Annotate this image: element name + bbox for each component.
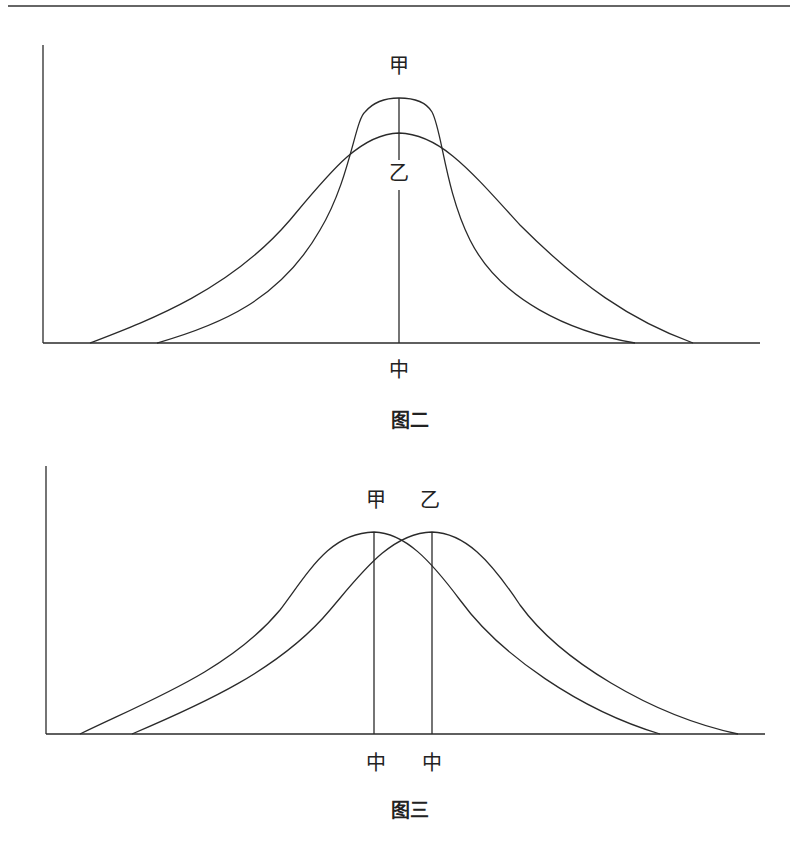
- fig3-caption: 图三: [391, 801, 429, 820]
- figure-3: [46, 466, 765, 734]
- fig3-label-center-left: 中: [366, 753, 386, 773]
- fig2-caption: 图二: [391, 411, 429, 430]
- fig3-curve-yi: [132, 532, 738, 734]
- fig2-curve-jia: [157, 98, 635, 343]
- fig3-label-jia: 甲: [366, 490, 386, 510]
- figure-2: [43, 45, 760, 343]
- fig3-label-yi: 乙: [420, 490, 440, 510]
- fig3-curve-jia: [80, 532, 660, 734]
- fig2-label-center: 中: [389, 360, 409, 380]
- fig2-label-jia: 甲: [389, 56, 409, 76]
- fig2-label-yi: 乙: [389, 163, 409, 183]
- fig3-label-center-right: 中: [422, 753, 442, 773]
